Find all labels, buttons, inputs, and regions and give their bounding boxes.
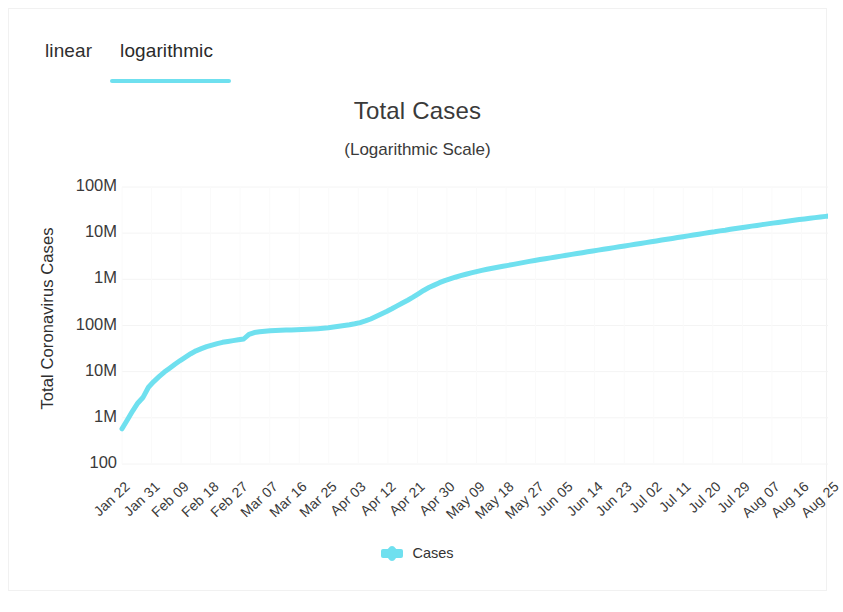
x-tick-label: Jan 31 — [120, 478, 163, 519]
x-tick-label: Apr 12 — [357, 478, 399, 519]
x-tick-label: Mar 07 — [237, 478, 281, 520]
y-axis-title: Total Coronavirus Cases — [38, 169, 57, 469]
tab-logarithmic-underline — [110, 79, 231, 83]
x-tick-label: Jun 23 — [593, 478, 636, 519]
tab-linear[interactable]: linear — [35, 33, 110, 65]
y-tick-label: 1M — [0, 268, 117, 287]
x-tick-label: Jul 20 — [685, 478, 724, 516]
tab-logarithmic[interactable]: logarithmic — [110, 33, 231, 65]
series-line-cases — [122, 216, 828, 429]
chart-legend: Cases — [9, 545, 826, 561]
tab-linear-wrapper[interactable]: linear — [35, 33, 110, 83]
tab-linear-underline — [35, 79, 110, 83]
tab-logarithmic-wrapper[interactable]: logarithmic — [110, 33, 231, 83]
y-tick-label: 10M — [0, 222, 117, 241]
x-tick-label: May 18 — [472, 478, 517, 522]
x-tick-label: Jan 22 — [90, 478, 133, 519]
x-tick-label: Mar 16 — [266, 478, 310, 520]
x-tick-label: Jul 29 — [714, 478, 753, 516]
legend-label-cases: Cases — [412, 545, 453, 561]
x-tick-label: Jun 05 — [534, 478, 577, 519]
legend-swatch-cases — [381, 549, 403, 558]
x-tick-label: Jul 02 — [626, 478, 665, 516]
y-tick-label: 10M — [0, 361, 117, 380]
x-tick-label: Feb 18 — [178, 478, 222, 520]
y-tick-label: 1M — [0, 407, 117, 426]
x-tick-label: Apr 21 — [386, 478, 428, 519]
x-tick-label: Apr 03 — [327, 478, 369, 519]
x-tick-label: Apr 30 — [416, 478, 458, 519]
y-tick-label: 100M — [0, 315, 117, 334]
chart-title: Total Cases — [9, 97, 826, 125]
x-tick-label: Aug 25 — [798, 478, 842, 521]
x-tick-label: May 09 — [442, 478, 487, 522]
x-tick-label: Mar 25 — [296, 478, 340, 520]
x-tick-label: Aug 16 — [768, 478, 812, 521]
x-tick-label: May 27 — [501, 478, 546, 522]
x-tick-label: Jul 11 — [656, 478, 694, 515]
x-tick-label: Aug 07 — [739, 478, 783, 521]
chart-subtitle: (Logarithmic Scale) — [9, 140, 826, 160]
x-tick-label: Jun 14 — [563, 478, 606, 519]
chart-card: linear logarithmic Total Cases (Logarith… — [8, 8, 827, 591]
y-tick-label: 100M — [0, 176, 117, 195]
x-tick-label: Feb 27 — [207, 478, 251, 520]
x-tick-label: Feb 09 — [148, 478, 192, 520]
y-tick-label: 100 — [0, 453, 117, 472]
scale-tabs: linear logarithmic — [35, 33, 231, 83]
